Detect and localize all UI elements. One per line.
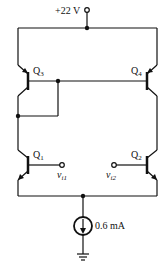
vi1-terminal <box>60 163 65 168</box>
circuit-schematic <box>0 0 168 276</box>
q3-label: Q3 <box>33 66 44 78</box>
current-arrow <box>80 228 86 234</box>
q2-label: Q2 <box>131 150 142 162</box>
vi1-label: vi1 <box>57 170 67 182</box>
current-source-label: 0.6 mA <box>95 221 125 231</box>
vi2-terminal <box>112 163 117 168</box>
vi2-label: vi2 <box>106 170 116 182</box>
supply-terminal <box>85 8 90 13</box>
supply-label: +22 V <box>55 6 80 16</box>
q4-label: Q4 <box>131 66 142 78</box>
q1-label: Q1 <box>33 150 44 162</box>
